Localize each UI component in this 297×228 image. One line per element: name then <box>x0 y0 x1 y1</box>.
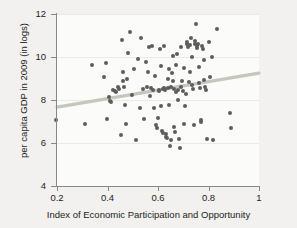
data-point <box>228 111 232 115</box>
data-point <box>130 93 134 97</box>
data-point <box>144 60 148 64</box>
data-point <box>170 71 174 75</box>
y-tick-label: 4 <box>41 181 46 191</box>
data-point <box>205 137 209 141</box>
data-point <box>119 133 123 137</box>
data-point <box>155 126 159 130</box>
y-tick-mark <box>51 57 57 58</box>
y-tick-label: 6 <box>41 138 46 148</box>
data-point <box>169 138 173 142</box>
data-point <box>121 79 125 83</box>
data-point <box>132 67 136 71</box>
data-point <box>168 144 172 148</box>
y-tick-mark <box>51 100 57 101</box>
data-point <box>207 40 211 44</box>
data-point <box>201 47 205 51</box>
data-point <box>184 92 188 96</box>
data-point <box>192 123 196 127</box>
data-point <box>83 122 87 126</box>
y-axis-title: per capita GDP in 2009 (in logs) <box>18 6 29 176</box>
data-point <box>171 54 175 58</box>
data-point <box>177 137 181 141</box>
data-point <box>178 146 182 150</box>
x-tick-mark <box>158 186 159 191</box>
y-tick-mark <box>51 143 57 144</box>
x-axis-title: Index of Economic Participation and Oppo… <box>0 209 297 220</box>
data-point <box>211 138 215 142</box>
x-tick-label: 0.8 <box>202 193 215 203</box>
y-tick-label: 10 <box>35 52 46 62</box>
data-point <box>197 65 201 69</box>
data-point <box>109 100 113 104</box>
data-point <box>159 64 163 68</box>
data-point <box>202 58 206 62</box>
x-tick-label: 0.2 <box>50 193 63 203</box>
data-point <box>90 63 94 67</box>
data-point <box>120 38 124 42</box>
y-tick-label: 8 <box>41 95 46 105</box>
plot-area <box>57 14 259 186</box>
x-tick-mark <box>57 186 58 191</box>
x-tick-mark <box>209 186 210 191</box>
data-point <box>210 55 214 59</box>
x-tick-mark <box>259 186 260 191</box>
scatter-plot-figure: 4681012 0.20.40.60.81 per capita GDP in … <box>0 0 297 228</box>
data-point <box>189 36 193 40</box>
y-tick-mark <box>51 14 57 15</box>
data-point <box>167 103 171 107</box>
data-point <box>194 22 198 26</box>
data-point <box>182 66 186 70</box>
data-point <box>138 106 142 110</box>
data-point <box>105 117 109 121</box>
data-point <box>173 130 177 134</box>
data-point <box>188 70 192 74</box>
data-point <box>123 103 127 107</box>
x-tick-mark <box>108 186 109 191</box>
data-point <box>171 79 175 83</box>
data-point <box>183 104 187 108</box>
data-point <box>180 79 184 83</box>
x-tick-label: 0.4 <box>101 193 114 203</box>
y-tick-label: 12 <box>35 9 46 19</box>
data-point <box>166 77 170 81</box>
data-point <box>122 85 126 89</box>
data-point <box>229 126 233 130</box>
data-point <box>208 75 212 79</box>
x-tick-label: 1 <box>256 193 261 203</box>
data-point <box>136 57 140 61</box>
x-tick-label: 0.6 <box>151 193 164 203</box>
fit-line <box>57 14 259 186</box>
data-point <box>182 122 186 126</box>
